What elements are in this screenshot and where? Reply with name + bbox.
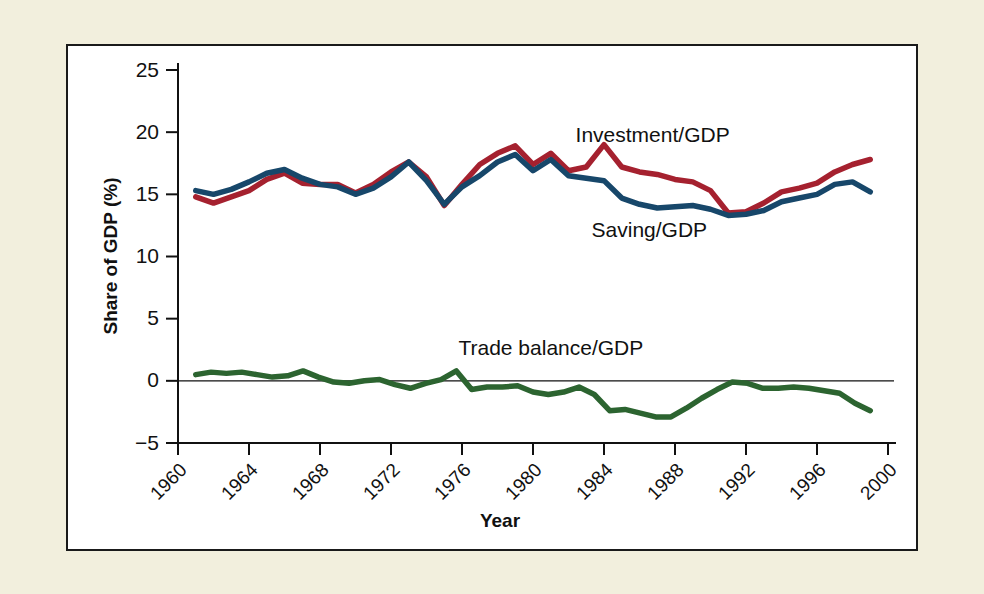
y-tick-label: 10 xyxy=(136,244,159,267)
line-chart: −505101520251960196419681972197619801984… xyxy=(0,0,984,594)
x-tick-label: 1972 xyxy=(359,459,404,504)
y-axis-title: Share of GDP (%) xyxy=(100,178,121,335)
x-tick-label: 1976 xyxy=(430,459,475,504)
series-label-trade-balance-gdp: Trade balance/GDP xyxy=(458,336,643,359)
x-tick-label: 1980 xyxy=(501,459,546,504)
x-tick-label: 1988 xyxy=(643,459,688,504)
x-tick-label: 1968 xyxy=(288,459,333,504)
y-tick-label: 5 xyxy=(147,306,159,329)
x-tick-label: 1960 xyxy=(146,459,191,504)
y-tick-label: 25 xyxy=(136,58,159,81)
series-label-saving-gdp: Saving/GDP xyxy=(592,218,708,241)
x-tick-label: 1992 xyxy=(714,459,759,504)
series-line-trade-balance-gdp xyxy=(196,371,871,417)
x-tick-label: 2000 xyxy=(856,459,901,504)
x-axis-title: Year xyxy=(480,510,521,531)
y-tick-label: 15 xyxy=(136,182,159,205)
x-tick-label: 1984 xyxy=(572,459,617,504)
y-tick-label: 0 xyxy=(147,368,159,391)
y-tick-label: 20 xyxy=(136,120,159,143)
x-tick-label: 1996 xyxy=(785,459,830,504)
y-tick-label: −5 xyxy=(135,431,159,454)
x-tick-label: 1964 xyxy=(217,459,262,504)
series-line-investment-gdp xyxy=(196,145,871,213)
figure-page: −505101520251960196419681972197619801984… xyxy=(0,0,984,594)
series-label-investment-gdp: Investment/GDP xyxy=(576,123,730,146)
